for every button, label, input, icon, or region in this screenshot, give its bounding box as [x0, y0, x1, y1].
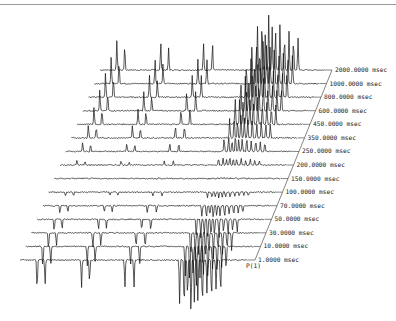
delay-label: 150.0000 msec: [291, 175, 340, 182]
spectrum-trace: [37, 219, 264, 238]
delay-label: 50.0000 msec: [275, 215, 320, 222]
delay-label: 70.0000 msec: [280, 202, 325, 209]
spectrum-trace: [43, 205, 270, 217]
spectrum-trace: [60, 158, 286, 166]
stacked-spectra-plot: 2000.0000 msec1000.0000 msec800.0000 mse…: [0, 0, 396, 321]
spectrum-trace: [66, 137, 292, 152]
delay-label: 350.0000 msec: [308, 134, 357, 141]
spectra-traces: [20, 15, 325, 309]
spectrum-trace: [100, 15, 325, 71]
spectrum-trace: [54, 177, 280, 179]
delay-label: 1.0000 msec: [258, 256, 299, 263]
spectrum-trace: [26, 246, 254, 286]
delay-label: 800.0000 msec: [324, 93, 373, 100]
delay-label: 2000.0000 msec: [335, 66, 387, 73]
delay-label: 600.0000 msec: [319, 107, 368, 114]
delay-label: 1000.0000 msec: [330, 80, 382, 87]
spectrum-trace: [89, 59, 314, 98]
delay-label: 100.0000 msec: [286, 188, 335, 195]
delay-label: 450.0000 msec: [313, 120, 362, 127]
axis-label: P(1): [246, 262, 261, 269]
delay-label: 250.0000 msec: [302, 147, 351, 154]
delay-label: 30.0000 msec: [269, 229, 314, 236]
delay-label: 10.0000 msec: [264, 242, 309, 249]
spectrum-trace: [20, 259, 248, 309]
delay-label: 200.0000 msec: [297, 161, 346, 168]
spectrum-trace: [49, 192, 276, 199]
